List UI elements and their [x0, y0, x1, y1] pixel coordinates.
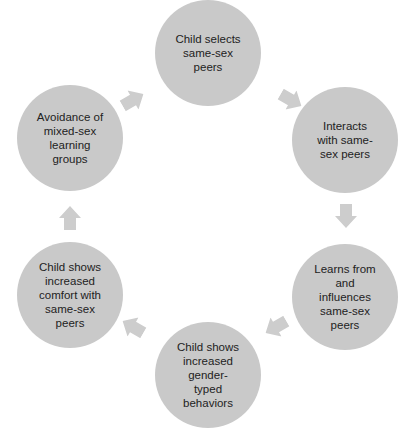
arrow-down-icon — [335, 204, 357, 228]
node-increased-comfort-with-same-sex-peers: Child shows increased comfort with same-… — [17, 242, 123, 348]
node-learns-from-and-influences: Learns from and influences same-sex peer… — [292, 244, 398, 350]
cycle-diagram: Child selects same-sex peers Interacts w… — [0, 0, 406, 428]
node-avoidance-of-mixed-sex-groups: Avoidance of mixed-sex learning groups — [17, 85, 123, 191]
node-interacts-with-same-sex-peers: Interacts with same- sex peers — [292, 87, 398, 193]
arrow-up-icon — [59, 206, 81, 230]
node-child-selects-same-sex-peers: Child selects same-sex peers — [155, 0, 261, 106]
node-label: Learns from and influences same-sex peer… — [314, 262, 375, 332]
arrow-left-up-icon — [117, 311, 149, 342]
node-label: Child shows increased gender- typed beha… — [177, 340, 239, 410]
arrow-left-down-icon — [260, 311, 292, 342]
arrow-right-up-icon — [117, 84, 149, 115]
node-label: Child shows increased comfort with same-… — [39, 260, 101, 330]
node-label: Interacts with same- sex peers — [317, 119, 373, 161]
node-label: Avoidance of mixed-sex learning groups — [37, 110, 103, 166]
node-increased-gender-typed-behaviors: Child shows increased gender- typed beha… — [155, 322, 261, 428]
node-label: Child selects same-sex peers — [175, 32, 240, 74]
